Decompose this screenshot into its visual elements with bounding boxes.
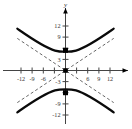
y-tick-label-9: 9 bbox=[57, 33, 60, 40]
plot-area: -12 -9 -6 6 9 12 12 9 3 -3 -9 -12 y bbox=[0, 0, 132, 129]
origin-marker bbox=[63, 68, 68, 73]
y-tick-label--3: -3 bbox=[55, 78, 60, 85]
y-tick-label-3: 3 bbox=[57, 56, 60, 63]
x-tick-label-9: 9 bbox=[97, 75, 100, 82]
x-tick-label--12: -12 bbox=[17, 75, 25, 82]
y-tick-label-12: 12 bbox=[54, 22, 60, 29]
x-tick-label--9: -9 bbox=[30, 75, 35, 82]
x-tick-label-12: 12 bbox=[107, 75, 113, 82]
hyperbola-chart: -12 -9 -6 6 9 12 12 9 3 -3 -9 -12 y bbox=[0, 0, 132, 129]
x-tick-labels: -12 -9 -6 6 9 12 bbox=[17, 75, 113, 82]
upper-vertex-marker bbox=[63, 48, 68, 53]
x-tick-label--6: -6 bbox=[41, 75, 46, 82]
y-tick-label--12: -12 bbox=[52, 111, 60, 118]
x-axis-arrow bbox=[123, 68, 129, 73]
x-tick-label-6: 6 bbox=[86, 75, 89, 82]
y-axis-label: y bbox=[63, 1, 68, 9]
axes-group bbox=[3, 8, 128, 124]
y-tick-label--9: -9 bbox=[55, 100, 60, 107]
lower-vertex-marker bbox=[63, 90, 68, 95]
